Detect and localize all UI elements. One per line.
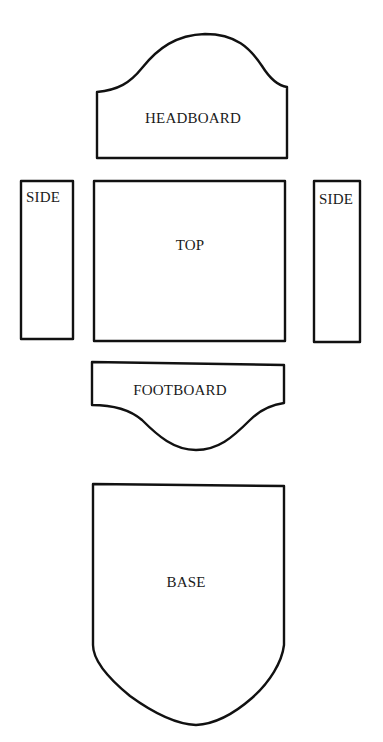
headboard-outline [97, 34, 287, 158]
side-left-label: SIDE [26, 189, 60, 206]
base-label: BASE [166, 574, 205, 591]
base-outline [93, 484, 284, 725]
top-label: TOP [176, 237, 205, 254]
footboard-label: FOOTBOARD [133, 382, 226, 399]
headboard-label: HEADBOARD [145, 110, 241, 127]
top-outline [94, 181, 285, 341]
footboard-outline [92, 362, 284, 450]
side-right-label: SIDE [319, 191, 353, 208]
